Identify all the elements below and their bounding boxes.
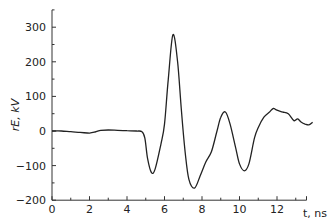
- x-axis-label: t, ns: [303, 207, 327, 220]
- x-axis: 024681012: [49, 196, 307, 216]
- x-tick-label: 4: [124, 203, 131, 216]
- y-tick-label: 200: [25, 56, 46, 69]
- y-tick-label: 300: [25, 21, 46, 34]
- y-tick-label: 100: [25, 90, 46, 103]
- x-tick-label: 2: [86, 203, 93, 216]
- x-tick-label: 6: [161, 203, 168, 216]
- series-line-rE: [52, 34, 313, 188]
- x-tick-label: 10: [233, 203, 247, 216]
- y-tick-label: −200: [16, 194, 46, 207]
- line-chart: −200−1000100200300 024681012 rE, kV t, n…: [0, 0, 330, 223]
- y-tick-label: 0: [39, 125, 46, 138]
- x-tick-label: 0: [49, 203, 56, 216]
- x-tick-label: 8: [199, 203, 206, 216]
- y-axis-label: rE, kV: [9, 97, 22, 131]
- y-tick-label: −100: [16, 160, 46, 173]
- x-tick-label: 12: [270, 203, 284, 216]
